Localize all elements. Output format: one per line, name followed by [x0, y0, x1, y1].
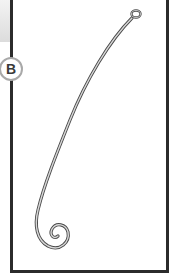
spiral-head-pin-icon	[0, 0, 169, 275]
figure-label-text: B	[6, 61, 16, 77]
figure-label-badge: B	[0, 57, 23, 81]
